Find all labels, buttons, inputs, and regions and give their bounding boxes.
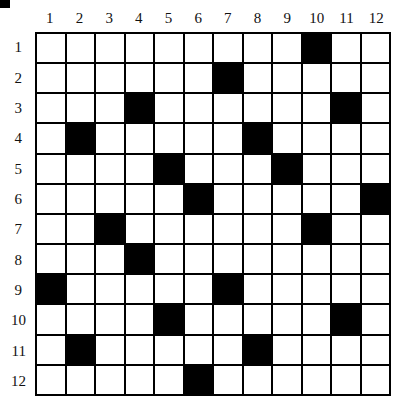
white-cell[interactable]	[67, 155, 95, 183]
white-cell[interactable]	[303, 305, 331, 333]
white-cell[interactable]	[273, 336, 301, 364]
white-cell[interactable]	[96, 336, 124, 364]
white-cell[interactable]	[37, 366, 65, 394]
white-cell[interactable]	[244, 155, 272, 183]
white-cell[interactable]	[67, 275, 95, 303]
white-cell[interactable]	[185, 155, 213, 183]
white-cell[interactable]	[332, 64, 360, 92]
white-cell[interactable]	[214, 124, 242, 152]
white-cell[interactable]	[273, 185, 301, 213]
white-cell[interactable]	[185, 34, 213, 62]
white-cell[interactable]	[67, 245, 95, 273]
white-cell[interactable]	[214, 185, 242, 213]
white-cell[interactable]	[96, 64, 124, 92]
white-cell[interactable]	[126, 155, 154, 183]
white-cell[interactable]	[126, 366, 154, 394]
white-cell[interactable]	[37, 124, 65, 152]
white-cell[interactable]	[126, 215, 154, 243]
white-cell[interactable]	[37, 64, 65, 92]
white-cell[interactable]	[273, 215, 301, 243]
white-cell[interactable]	[332, 185, 360, 213]
white-cell[interactable]	[67, 34, 95, 62]
white-cell[interactable]	[96, 185, 124, 213]
white-cell[interactable]	[303, 366, 331, 394]
white-cell[interactable]	[96, 275, 124, 303]
white-cell[interactable]	[244, 94, 272, 122]
white-cell[interactable]	[96, 305, 124, 333]
white-cell[interactable]	[37, 34, 65, 62]
white-cell[interactable]	[67, 215, 95, 243]
white-cell[interactable]	[332, 34, 360, 62]
white-cell[interactable]	[332, 366, 360, 394]
white-cell[interactable]	[362, 64, 390, 92]
white-cell[interactable]	[303, 185, 331, 213]
white-cell[interactable]	[214, 155, 242, 183]
white-cell[interactable]	[273, 275, 301, 303]
white-cell[interactable]	[362, 215, 390, 243]
white-cell[interactable]	[362, 34, 390, 62]
white-cell[interactable]	[362, 245, 390, 273]
white-cell[interactable]	[273, 34, 301, 62]
white-cell[interactable]	[67, 94, 95, 122]
white-cell[interactable]	[155, 245, 183, 273]
white-cell[interactable]	[214, 245, 242, 273]
white-cell[interactable]	[155, 124, 183, 152]
white-cell[interactable]	[244, 34, 272, 62]
white-cell[interactable]	[214, 336, 242, 364]
white-cell[interactable]	[185, 245, 213, 273]
white-cell[interactable]	[96, 34, 124, 62]
white-cell[interactable]	[273, 305, 301, 333]
white-cell[interactable]	[214, 94, 242, 122]
white-cell[interactable]	[37, 305, 65, 333]
white-cell[interactable]	[244, 64, 272, 92]
white-cell[interactable]	[303, 245, 331, 273]
white-cell[interactable]	[332, 155, 360, 183]
white-cell[interactable]	[332, 275, 360, 303]
white-cell[interactable]	[155, 275, 183, 303]
white-cell[interactable]	[214, 215, 242, 243]
white-cell[interactable]	[303, 155, 331, 183]
white-cell[interactable]	[362, 336, 390, 364]
white-cell[interactable]	[126, 275, 154, 303]
white-cell[interactable]	[362, 94, 390, 122]
white-cell[interactable]	[37, 215, 65, 243]
white-cell[interactable]	[214, 34, 242, 62]
white-cell[interactable]	[214, 366, 242, 394]
white-cell[interactable]	[155, 366, 183, 394]
white-cell[interactable]	[244, 275, 272, 303]
white-cell[interactable]	[244, 245, 272, 273]
white-cell[interactable]	[332, 245, 360, 273]
white-cell[interactable]	[303, 94, 331, 122]
white-cell[interactable]	[155, 34, 183, 62]
white-cell[interactable]	[273, 245, 301, 273]
white-cell[interactable]	[155, 64, 183, 92]
white-cell[interactable]	[126, 124, 154, 152]
white-cell[interactable]	[244, 215, 272, 243]
white-cell[interactable]	[362, 305, 390, 333]
white-cell[interactable]	[303, 275, 331, 303]
white-cell[interactable]	[67, 366, 95, 394]
white-cell[interactable]	[96, 124, 124, 152]
white-cell[interactable]	[332, 336, 360, 364]
white-cell[interactable]	[96, 245, 124, 273]
white-cell[interactable]	[303, 64, 331, 92]
white-cell[interactable]	[185, 215, 213, 243]
white-cell[interactable]	[185, 64, 213, 92]
white-cell[interactable]	[126, 305, 154, 333]
white-cell[interactable]	[303, 336, 331, 364]
white-cell[interactable]	[67, 305, 95, 333]
white-cell[interactable]	[67, 185, 95, 213]
white-cell[interactable]	[96, 366, 124, 394]
white-cell[interactable]	[155, 94, 183, 122]
white-cell[interactable]	[362, 366, 390, 394]
white-cell[interactable]	[362, 275, 390, 303]
white-cell[interactable]	[273, 64, 301, 92]
white-cell[interactable]	[214, 305, 242, 333]
white-cell[interactable]	[244, 366, 272, 394]
white-cell[interactable]	[273, 124, 301, 152]
white-cell[interactable]	[244, 305, 272, 333]
white-cell[interactable]	[362, 124, 390, 152]
white-cell[interactable]	[185, 94, 213, 122]
white-cell[interactable]	[37, 155, 65, 183]
white-cell[interactable]	[126, 64, 154, 92]
